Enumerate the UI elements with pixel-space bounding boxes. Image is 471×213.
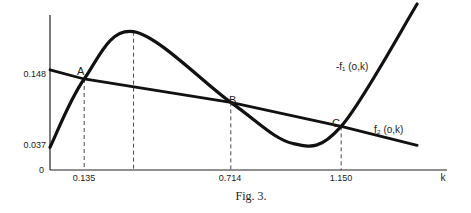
point-label-c: C <box>332 117 340 129</box>
x-tick-label: 0.714 <box>219 173 242 183</box>
origin-label: 0 <box>39 165 44 175</box>
y-tick-label: 0.037 <box>23 140 46 150</box>
x-tick-label: 1.150 <box>330 173 353 183</box>
chart: 0.148 0.037 0 0.135 0.714 1.150 k A B C … <box>0 0 471 213</box>
series-line-f2 <box>50 70 417 146</box>
figure-caption: Fig. 3. <box>235 189 266 203</box>
axes <box>50 15 447 170</box>
legend-label-f2: f₂ (o,k) <box>374 124 403 135</box>
x-axis-label: k <box>441 172 447 183</box>
point-label-b: B <box>229 94 236 106</box>
x-tick-label: 0.135 <box>73 173 96 183</box>
legend-label-f1: -f₁ (o,k) <box>336 61 368 72</box>
y-tick-label: 0.148 <box>23 69 46 79</box>
point-label-a: A <box>77 65 85 77</box>
series-line-f1 <box>50 4 417 147</box>
